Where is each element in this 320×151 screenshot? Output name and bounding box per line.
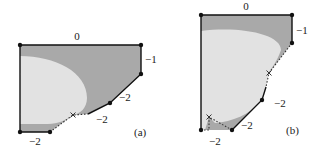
edge-label-right: −1 (145, 53, 157, 65)
edge-label-top: 0 (243, 0, 249, 12)
edge-label-slope-upper: −2 (274, 97, 286, 109)
edge-label-bottom: −2 (29, 135, 41, 147)
edge-label-slope-lower: −2 (241, 119, 253, 131)
panel-caption: (a) (134, 126, 147, 139)
edge-label-top: 0 (74, 30, 80, 42)
edge-label-slope-lower: −2 (96, 113, 108, 125)
panel-b: 0 −1 −2 −2 −2 (b) (199, 0, 308, 147)
light-region (201, 30, 281, 130)
edge-label-right: −1 (296, 24, 308, 36)
panel-caption: (b) (286, 124, 299, 137)
edge-label-slope-upper: −2 (119, 91, 131, 103)
panel-a: 0 −1 −2 −2 −2 (a) (18, 30, 157, 147)
polygon-diagram: 0 −1 −2 −2 −2 (a) (0, 0, 320, 151)
edge-label-bottom: −2 (209, 135, 221, 147)
